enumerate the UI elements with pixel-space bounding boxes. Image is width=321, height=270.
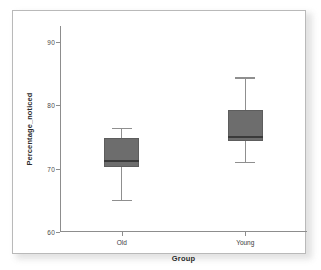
y-axis-title: Percentage_noticed [25,92,34,165]
x-tick-label-young: Young [236,239,254,246]
whisker-cap-upper [235,77,255,78]
plot-area: 60708090 OldYoung [60,26,307,232]
y-tick-mark [56,232,60,233]
y-tick-label: 90 [47,38,55,45]
whisker-cap-lower [112,200,132,201]
x-tick-label-old: Old [117,239,127,246]
y-tick-label: 70 [47,165,55,172]
y-tick-mark [56,169,60,170]
x-tick-mark-old [122,232,123,236]
x-tick-mark-young [245,232,246,236]
median-line [228,136,263,138]
box-iqr [104,138,139,167]
whisker-cap-upper [112,128,132,129]
chart-card: Percentage_noticed 60708090 OldYoung Gro… [12,10,306,254]
x-axis-title: Group [60,254,307,263]
y-tick-mark [56,105,60,106]
chart-screenshot: Percentage_noticed 60708090 OldYoung Gro… [0,0,321,270]
y-tick-mark [56,42,60,43]
y-tick-label: 80 [47,102,55,109]
y-tick-label: 60 [47,229,55,236]
whisker-cap-lower [235,162,255,163]
median-line [104,160,139,162]
